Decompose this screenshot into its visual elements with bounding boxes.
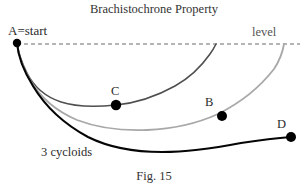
point-d-label: D <box>277 118 286 131</box>
figure-title: Brachistochrone Property <box>0 3 308 16</box>
cycloids-annotation-label: 3 cycloids <box>41 146 92 159</box>
point-a-marker <box>13 39 21 47</box>
point-c-marker <box>111 100 121 110</box>
brachistochrone-figure: Brachistochrone Property A=start level C… <box>0 0 308 194</box>
figure-caption: Fig. 15 <box>0 170 308 183</box>
level-line-label: level <box>252 26 276 39</box>
point-d-marker <box>286 132 296 142</box>
point-b-marker <box>217 111 227 121</box>
point-a-label: A=start <box>8 24 47 37</box>
point-b-label: B <box>205 96 213 109</box>
cycloid-curve-b <box>17 43 284 130</box>
cycloid-curve-d <box>17 43 291 152</box>
point-c-label: C <box>111 85 119 98</box>
